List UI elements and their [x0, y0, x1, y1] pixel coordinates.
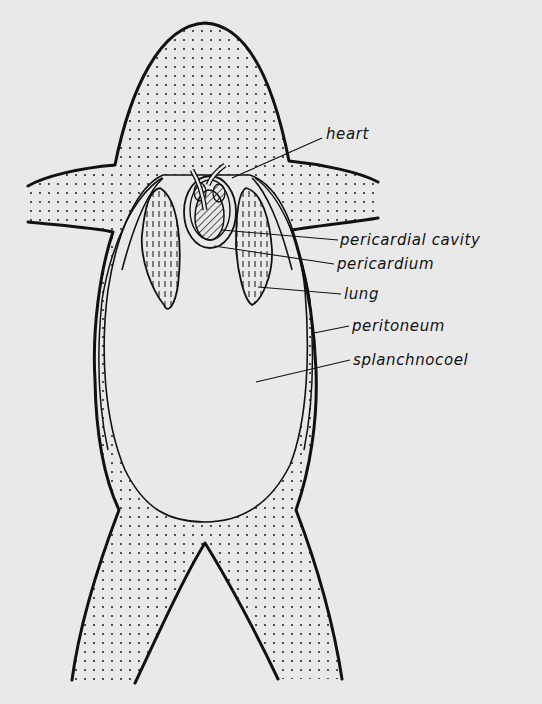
- label-heart: heart: [326, 127, 369, 142]
- label-pericardial-cavity: pericardial cavity: [340, 233, 481, 248]
- figure-caption-cropped: [117, 697, 447, 704]
- label-splanchnocoel: splanchnocoel: [353, 353, 468, 368]
- label-peritoneum: peritoneum: [352, 319, 445, 334]
- leader-peritoneum: [314, 326, 349, 333]
- label-lung: lung: [344, 287, 379, 302]
- diagram-figure: heart pericardial cavity pericardium lun…: [0, 0, 542, 704]
- label-pericardium: pericardium: [337, 257, 434, 272]
